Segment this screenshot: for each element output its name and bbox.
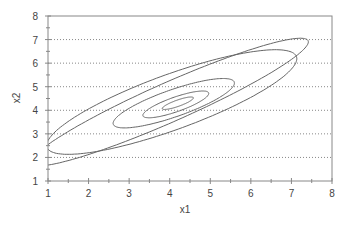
contour-chart: 12345678 12345678 x1 x2 — [0, 0, 347, 225]
y-tick-label: 2 — [32, 152, 38, 163]
y-tick-label: 6 — [32, 58, 38, 69]
y-tick-label: 1 — [32, 176, 38, 187]
x-tick-label: 4 — [167, 188, 173, 199]
y-tick-label: 3 — [32, 129, 38, 140]
x-tick-label: 8 — [329, 188, 335, 199]
y-tick-label: 8 — [32, 11, 38, 22]
x-tick-label: 7 — [289, 188, 295, 199]
x-tick-label: 6 — [248, 188, 254, 199]
plot-frame — [48, 16, 332, 181]
gridlines — [48, 40, 332, 158]
x-axis-label: x1 — [180, 204, 191, 215]
y-tick-label: 7 — [32, 35, 38, 46]
y-tick-label: 5 — [32, 82, 38, 93]
x-tick-label: 3 — [126, 188, 132, 199]
x-tick-label: 1 — [45, 188, 51, 199]
x-tick-label: 2 — [86, 188, 92, 199]
contour-5 — [31, 38, 308, 166]
contour-lines — [31, 38, 308, 166]
x-tick-label: 5 — [208, 188, 214, 199]
plot-border — [48, 16, 332, 181]
contour-3 — [113, 79, 234, 128]
x-axis: 12345678 — [45, 178, 335, 199]
contour-2 — [143, 91, 209, 118]
y-axis-label: x2 — [11, 92, 22, 103]
y-tick-label: 4 — [32, 105, 38, 116]
